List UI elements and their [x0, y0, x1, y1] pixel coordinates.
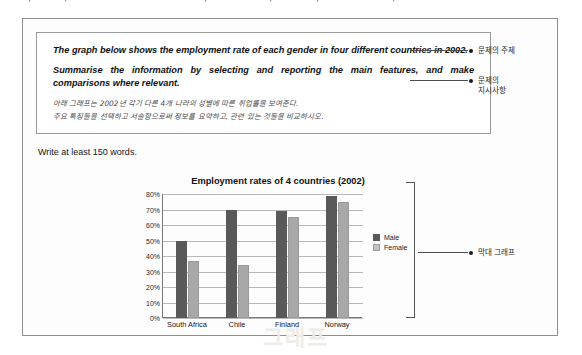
annotation-topic-label: 문제의 주제 [478, 46, 515, 56]
chart-x-tick-label: Chile [212, 320, 262, 329]
top-bleed-glyphs: ㅣㅡㅣ ㅡㅡ ㄱㅡ ㅡㅣ ㅡㅡㅣㅡ ㅣㅡ ㅡ ㅣㅡㅡ [24, 0, 442, 4]
chart-x-tick-label: Norway [312, 320, 362, 329]
chart-y-tick-label: 80% [146, 191, 160, 198]
chart-bar-female [338, 202, 349, 318]
chart-bar-male [326, 196, 337, 318]
chart-y-tick-label: 60% [146, 222, 160, 229]
chart-bar-male [276, 211, 287, 318]
chart-gridline: 0% [163, 318, 363, 319]
chart-bar-male [226, 210, 237, 319]
chart-x-tick-label: South Africa [162, 320, 212, 329]
chart-bar-male [176, 241, 187, 319]
chart-bar-female [288, 217, 299, 318]
chart-bar-female [238, 265, 249, 318]
task-translation-topic: 아래 그래프는 2002년 각기 다른 4개 나라의 성별에 따른 취업률을 보… [53, 98, 474, 109]
top-edge-bleed-text: ㅣㅡㅣ ㅡㅡ ㄱㅡ ㅡㅣ ㅡㅡㅣㅡ ㅣㅡ ㅡ ㅣㅡㅡ [0, 0, 582, 14]
annotation-instruction-label: 문제의 지시사항 [478, 76, 506, 95]
chart-y-tick-label: 30% [146, 268, 160, 275]
legend-label-female: Female [384, 244, 407, 251]
leader-line-icon [418, 252, 468, 253]
chart-bars-layer [162, 194, 362, 318]
annotation-topic: 문제의 주제 [410, 46, 515, 56]
bar-chart: Employment rates of 4 countries (2002) 0… [130, 176, 415, 328]
chart-bar-group [162, 194, 212, 318]
chart-plot-wrapper: 0%10%20%30%40%50%60%70%80% South AfricaC… [162, 194, 362, 318]
legend-label-male: Male [384, 234, 399, 241]
legend-item-male: Male [373, 234, 407, 241]
chart-title: Employment rates of 4 countries (2002) [158, 176, 398, 186]
chart-bar-group [212, 194, 262, 318]
chart-x-axis-labels: South AfricaChileFinlandNorway [162, 320, 362, 329]
legend-swatch-female-icon [373, 244, 380, 251]
chart-legend: Male Female [373, 234, 407, 254]
chart-y-tick-label: 20% [146, 284, 160, 291]
annotation-chart-label: 막대 그래프 [478, 248, 515, 258]
chart-y-tick-label: 40% [146, 253, 160, 260]
leader-line-icon [410, 50, 468, 51]
chart-y-tick-label: 10% [146, 299, 160, 306]
bullet-dot-icon [469, 251, 473, 255]
task-translation-instruction: 주요 특징들을 선택하고 서술함으로써 정보를 요약하고, 관련 있는 것들을 … [53, 111, 474, 122]
chart-y-tick-label: 0% [150, 315, 160, 322]
annotation-chart: 막대 그래프 [418, 248, 515, 258]
bullet-dot-icon [469, 79, 473, 83]
chart-bar-group [262, 194, 312, 318]
chart-bar-female [188, 261, 199, 318]
legend-item-female: Female [373, 244, 407, 251]
chart-bar-group [312, 194, 362, 318]
chart-x-tick-label: Finland [262, 320, 312, 329]
chart-grouping-bracket [406, 182, 415, 318]
word-count-instruction: Write at least 150 words. [38, 147, 137, 157]
legend-swatch-male-icon [373, 234, 380, 241]
chart-y-tick-label: 70% [146, 206, 160, 213]
leader-line-icon [410, 80, 468, 81]
chart-y-tick-label: 50% [146, 237, 160, 244]
bullet-dot-icon [469, 49, 473, 53]
annotation-instruction: 문제의 지시사항 [410, 76, 506, 95]
